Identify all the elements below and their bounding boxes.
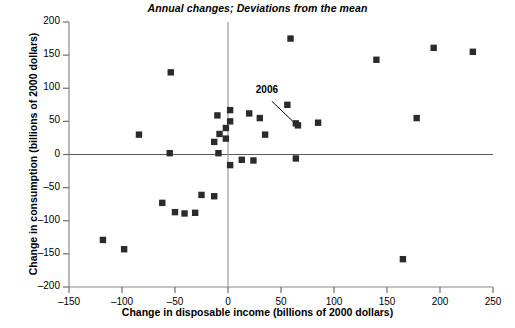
annotation-label: 2006 [256, 84, 278, 95]
data-point-marker [470, 49, 476, 55]
data-point-marker [167, 150, 173, 156]
x-tick-label: 100 [309, 296, 359, 307]
data-point-marker [223, 135, 229, 141]
data-point-marker [284, 102, 290, 108]
data-point-marker [211, 193, 217, 199]
x-tick-label: 200 [415, 296, 465, 307]
x-tick-label: –50 [150, 296, 200, 307]
data-markers-group [100, 35, 476, 262]
y-tick-label: 0 [20, 148, 60, 159]
data-point-marker [159, 200, 165, 206]
data-point-marker [214, 112, 220, 118]
y-tick-label: –100 [20, 214, 60, 225]
data-point-marker [413, 115, 419, 121]
y-tick-label: 150 [20, 48, 60, 59]
y-tick-label: 100 [20, 81, 60, 92]
data-point-marker [211, 139, 217, 145]
data-point-marker [198, 192, 204, 198]
data-point-marker [227, 118, 233, 124]
data-point-marker [295, 122, 301, 128]
x-tick-label: 50 [256, 296, 306, 307]
data-point-marker [430, 45, 436, 51]
plot-area [0, 0, 515, 328]
data-point-marker [100, 237, 106, 243]
y-tick-label: –50 [20, 181, 60, 192]
y-tick-label: 50 [20, 114, 60, 125]
y-tick-label: –150 [20, 247, 60, 258]
data-point-marker [227, 107, 233, 113]
data-point-marker [373, 57, 379, 63]
x-tick-label: 150 [362, 296, 412, 307]
data-point-marker [227, 162, 233, 168]
data-point-marker [400, 256, 406, 262]
x-tick-label: 0 [203, 296, 253, 307]
data-point-marker [239, 157, 245, 163]
data-point-marker [216, 131, 222, 137]
data-point-marker [315, 120, 321, 126]
data-point-marker [181, 210, 187, 216]
x-tick-label: 250 [468, 296, 515, 307]
data-point-marker [121, 246, 127, 252]
data-point-marker [246, 110, 252, 116]
y-tick-label: 200 [20, 15, 60, 26]
data-point-marker [257, 115, 263, 121]
data-point-marker [192, 210, 198, 216]
data-point-marker [262, 131, 268, 137]
data-point-marker [250, 157, 256, 163]
y-tick-label: –200 [20, 280, 60, 291]
data-point-marker [215, 150, 221, 156]
data-point-marker [223, 125, 229, 131]
x-tick-label: –150 [44, 296, 94, 307]
x-tick-label: –100 [97, 296, 147, 307]
data-point-marker [293, 155, 299, 161]
data-point-marker [168, 69, 174, 75]
data-point-marker [136, 131, 142, 137]
zero-lines-group [69, 22, 493, 287]
data-point-marker [287, 35, 293, 41]
data-point-marker [172, 209, 178, 215]
axes-group [63, 22, 493, 293]
scatter-chart-figure: Annual changes; Deviations from the mean… [0, 0, 515, 328]
